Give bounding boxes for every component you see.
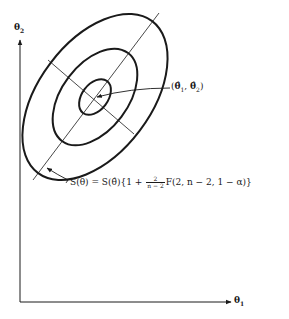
center-estimate-label: (θ̂1, θ̂2) (171, 81, 203, 93)
theta2-axis-label: θ2 (14, 22, 24, 34)
theta1-subscript: 1 (240, 300, 244, 307)
middle-contour-ellipse (36, 33, 155, 161)
contour-formula-label: S(θ) = S(θ̂){1 + 2n − 2F(2, n − 2, 1 − α… (70, 176, 252, 189)
minor-axis-line (48, 60, 134, 134)
formula-lhs: S(θ) = S(θ̂){1 + (70, 177, 145, 187)
diagram-canvas (0, 0, 289, 319)
fraction-denominator: n − 2 (146, 183, 165, 189)
formula-rhs: F(2, n − 2, 1 − α)} (166, 177, 252, 187)
theta1-axis-label: θ1 (234, 295, 244, 307)
major-axis-line (33, 13, 159, 180)
paren-close: ) (200, 81, 204, 91)
theta2-subscript: 2 (20, 27, 24, 34)
formula-fraction: 2n − 2 (146, 176, 165, 189)
